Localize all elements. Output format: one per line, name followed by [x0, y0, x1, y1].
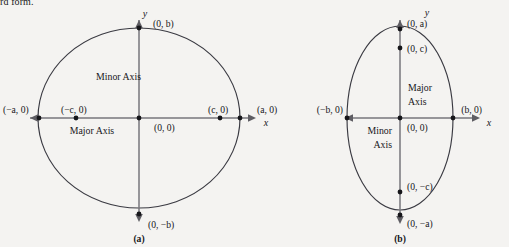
- figure-a-point-top-covertex: [137, 26, 142, 31]
- figure-b-major-axis-name-line2: Axis: [408, 96, 427, 107]
- figure-a-label-0-b: (0, b): [153, 18, 174, 30]
- figure-b-y-axis-label: y: [424, 7, 430, 18]
- figure-a-label-minus-a-0: (−a, 0): [3, 104, 29, 116]
- figure-b-caption: (b): [394, 233, 406, 245]
- figure-a-label-0-minus-b: (0, −b): [148, 219, 174, 231]
- figure-a-label-origin: (0, 0): [154, 122, 175, 134]
- figure-b-label-0-a: (0, a): [407, 18, 427, 30]
- figure-a-x-axis-label: x: [263, 117, 269, 128]
- figure-b-minor-axis-name-line1: Minor: [368, 125, 393, 136]
- figure-a-point-right-vertex: [238, 116, 243, 121]
- figure-b-group: y x (0, a) (0, c) (0, 0) (0, −c) (0, −a)…: [317, 7, 492, 245]
- figure-b-point-top-focus: [398, 46, 403, 51]
- figure-a-label-minus-c-0: (−c, 0): [61, 104, 87, 116]
- figure-a-caption: (a): [133, 233, 144, 245]
- figure-b-point-origin: [398, 116, 403, 121]
- figure-b-label-origin: (0, 0): [407, 122, 428, 134]
- figure-a-point-left-vertex: [37, 116, 42, 121]
- figure-b-label-minus-b-0: (−b, 0): [317, 104, 343, 116]
- figure-b-x-axis-label: x: [486, 117, 492, 128]
- ellipse-diagrams-svg: y x (−a, 0) (−c, 0) (0, 0) (c, 0) (a, 0)…: [0, 0, 509, 247]
- figure-a-minor-axis-name: Minor Axis: [96, 71, 141, 82]
- figure-b-label-0-c: (0, c): [407, 43, 427, 55]
- figure-page: rd form. y x (−a, 0): [0, 0, 509, 247]
- figure-a-x-axis-right-arrow-icon: [248, 114, 256, 122]
- figure-b-major-axis-name-line1: Major: [408, 82, 433, 93]
- figure-a-point-left-focus: [74, 116, 79, 121]
- figure-a-y-axis-label: y: [142, 8, 148, 19]
- figure-a-point-origin: [137, 116, 142, 121]
- figure-a-group: y x (−a, 0) (−c, 0) (0, 0) (c, 0) (a, 0)…: [3, 8, 277, 245]
- figure-a-label-c-0: (c, 0): [208, 104, 228, 116]
- figure-a-point-bottom-covertex: [137, 212, 142, 217]
- figure-b-label-0-minus-c: (0, −c): [407, 181, 433, 193]
- figure-a-point-right-focus: [218, 116, 223, 121]
- figure-b-minor-axis-name-line2: Axis: [373, 139, 392, 150]
- figure-b-label-b-0: (b, 0): [461, 104, 482, 116]
- figure-b-point-bottom-vertex: [398, 213, 403, 218]
- figure-a-label-a-0: (a, 0): [257, 104, 277, 116]
- figure-b-x-axis-right-arrow-icon: [472, 114, 480, 122]
- figure-b-point-right-covertex: [451, 116, 456, 121]
- figure-b-label-0-minus-a: (0, −a): [407, 218, 433, 230]
- figure-b-point-bottom-focus: [398, 190, 403, 195]
- figure-b-point-top-vertex: [398, 27, 403, 32]
- figure-b-point-left-covertex: [345, 116, 350, 121]
- figure-a-major-axis-name: Major Axis: [70, 125, 115, 136]
